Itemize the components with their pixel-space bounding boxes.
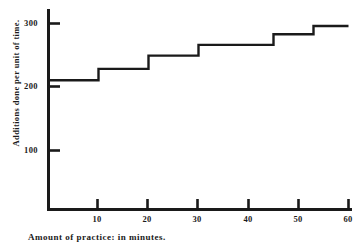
chart-figure: Additions done per unit of time. Amount … (0, 0, 364, 247)
step-curve (49, 26, 349, 80)
plot-area (0, 0, 364, 247)
